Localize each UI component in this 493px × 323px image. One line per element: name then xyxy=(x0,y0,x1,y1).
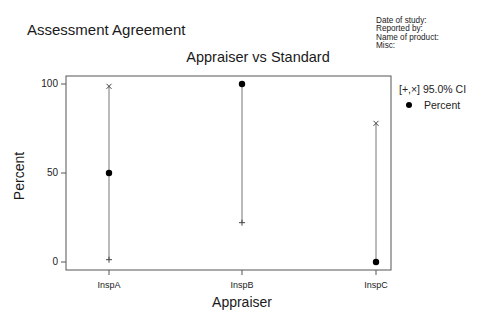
plus-marker-icon xyxy=(106,257,112,263)
x-tick-label: InspB xyxy=(230,280,253,290)
x-axis-label: Appraiser xyxy=(212,294,272,310)
plot-frame xyxy=(66,76,391,270)
plot-area xyxy=(0,0,493,323)
dot-marker-icon xyxy=(406,102,412,108)
y-tick-label: 0 xyxy=(28,256,58,267)
legend-percent-label: Percent xyxy=(424,99,460,111)
plus-marker-icon xyxy=(239,220,245,226)
y-tick-label: 50 xyxy=(28,167,58,178)
y-axis-label: Percent xyxy=(11,152,27,200)
percent-point xyxy=(373,259,379,265)
legend-ci-label: [+,×] 95.0% CI xyxy=(399,83,466,95)
legend-percent-entry: Percent xyxy=(399,97,466,113)
percent-point xyxy=(106,170,112,176)
y-tick-label: 100 xyxy=(28,78,58,89)
percent-point xyxy=(239,81,245,87)
legend-ci-entry: [+,×] 95.0% CI xyxy=(399,81,466,97)
x-tick-label: InspA xyxy=(97,280,120,290)
legend: [+,×] 95.0% CI Percent xyxy=(399,81,466,113)
x-tick-label: InspC xyxy=(364,280,388,290)
